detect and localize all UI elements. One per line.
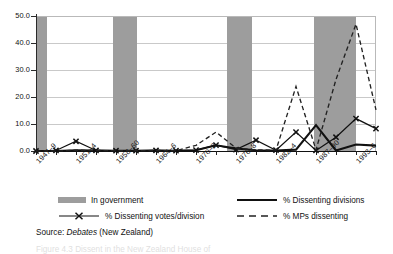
series-line	[36, 24, 376, 151]
series-x-marker	[333, 135, 338, 140]
legend-item-in-government: In government	[58, 192, 143, 208]
series-x-marker	[253, 138, 258, 143]
legend-label-mps-dissenting: % MPs dissenting	[283, 212, 348, 221]
series-line	[36, 119, 376, 151]
series-x-marker	[373, 126, 378, 131]
legend-item-dissenting-votes-per-division: % Dissenting votes/division	[58, 208, 204, 224]
chart-legend: In government % Dissenting divisions % D…	[36, 192, 386, 224]
series-x-marker	[73, 139, 78, 144]
dashed-line-icon	[236, 211, 278, 221]
source-emphasis: Debates	[67, 228, 98, 237]
source-prefix: Source:	[36, 228, 67, 237]
solid-line-icon	[236, 195, 278, 205]
legend-row-1: In government % Dissenting divisions	[36, 192, 386, 208]
legend-item-dissenting-divisions: % Dissenting divisions	[236, 192, 364, 208]
series-x-marker	[353, 116, 358, 121]
band-swatch-icon	[58, 197, 86, 203]
legend-label-in-government: In government	[91, 196, 143, 205]
series-x-marker	[293, 130, 298, 135]
legend-label-dissenting-votes-per-division: % Dissenting votes/division	[105, 212, 204, 221]
legend-row-2: % Dissenting votes/division % MPs dissen…	[36, 208, 386, 224]
line-with-x-marker-icon	[58, 211, 100, 221]
legend-label-dissenting-divisions: % Dissenting divisions	[283, 196, 364, 205]
legend-item-mps-dissenting: % MPs dissenting	[236, 208, 348, 224]
source-note: Source: Debates (New Zealand)	[36, 228, 153, 237]
figure-caption: Figure 4.3 Dissent in the New Zealand Ho…	[36, 245, 210, 254]
source-suffix: (New Zealand)	[97, 228, 153, 237]
